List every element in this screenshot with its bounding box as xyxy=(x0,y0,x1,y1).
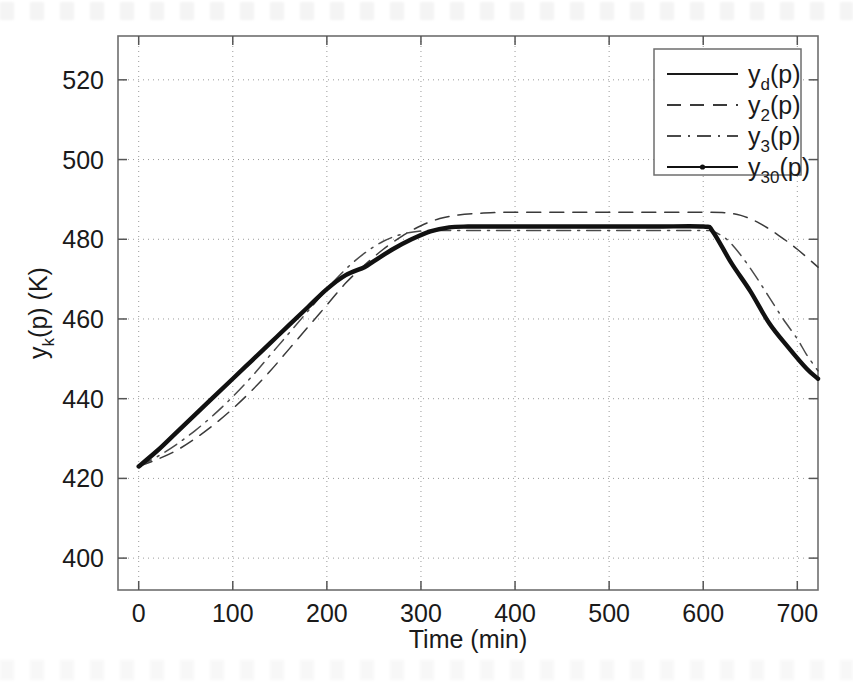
y-tick-label: 500 xyxy=(62,146,104,174)
series-line xyxy=(139,230,818,466)
y-tick-label: 480 xyxy=(62,225,104,253)
x-tick-label: 0 xyxy=(132,599,146,627)
y-axis-title-base: y xyxy=(24,346,52,359)
x-tick-label: 200 xyxy=(306,599,348,627)
x-tick-label: 500 xyxy=(588,599,630,627)
x-axis-title: Time (min) xyxy=(409,625,528,653)
svg-text:yk(p) (K): yk(p) (K) xyxy=(24,267,58,359)
x-tick-label: 400 xyxy=(494,599,536,627)
y-tick-label: 440 xyxy=(62,385,104,413)
legend-marker xyxy=(700,164,705,169)
series-line xyxy=(139,226,818,466)
y-tick-label: 420 xyxy=(62,464,104,492)
y-tick-label: 400 xyxy=(62,544,104,572)
y-tick-label: 520 xyxy=(62,66,104,94)
y-tick-label: 460 xyxy=(62,305,104,333)
figure-container: 0100200300400500600700 40042044046048050… xyxy=(0,0,853,684)
y-axis-tick-labels: 400420440460480500520 xyxy=(62,66,104,572)
x-tick-label: 700 xyxy=(776,599,818,627)
series-line xyxy=(139,212,818,466)
y-axis-title-rest: (p) (K) xyxy=(24,267,52,338)
series-4 xyxy=(139,226,818,466)
series-line xyxy=(139,226,818,466)
x-tick-label: 100 xyxy=(212,599,254,627)
series-2 xyxy=(139,212,818,466)
chart-legend: yd(p)y2(p)y3(p)y30(p) xyxy=(654,49,810,187)
legend-label: y30(p) xyxy=(748,153,810,187)
line-chart: 0100200300400500600700 40042044046048050… xyxy=(0,0,853,684)
y-axis-title: yk(p) (K) xyxy=(24,267,58,359)
data-series-group xyxy=(139,212,818,466)
x-tick-label: 600 xyxy=(682,599,724,627)
series-1 xyxy=(139,226,818,466)
series-3 xyxy=(139,230,818,466)
x-axis-tick-labels: 0100200300400500600700 xyxy=(132,599,818,627)
x-tick-label: 300 xyxy=(400,599,442,627)
